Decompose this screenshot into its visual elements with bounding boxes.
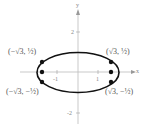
tick-label-x-pos1: 1 <box>96 76 99 82</box>
x-axis-label: x <box>136 68 139 74</box>
point-focus-left <box>40 70 44 74</box>
point-label-top-left: (−√3, ½) <box>8 48 36 56</box>
point-sqrt3-pos-half <box>109 60 113 64</box>
point-neg-sqrt3-neg-half <box>40 80 44 84</box>
point-focus-right <box>109 70 113 74</box>
tick-label-y-neg2: -2 <box>67 110 72 116</box>
y-axis-label: y <box>76 2 79 8</box>
y-axis-arrow-icon <box>76 9 80 15</box>
point-label-top-right: (√3, ½) <box>106 48 130 56</box>
tick-label-y-pos2: 2 <box>71 29 74 35</box>
ellipse-graph <box>0 0 146 139</box>
tick-label-x-neg1: -1 <box>53 76 58 82</box>
point-sqrt3-neg-half <box>109 80 113 84</box>
point-neg-sqrt3-pos-half <box>40 60 44 64</box>
point-label-bottom-right: (√3, −½) <box>105 88 133 96</box>
point-label-bottom-left: (−√3, −½) <box>6 88 39 96</box>
